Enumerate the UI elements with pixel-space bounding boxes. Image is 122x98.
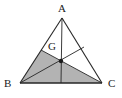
centroid-point-marker	[59, 59, 63, 63]
geometry-figure: A B C G	[0, 0, 122, 98]
centroid-label-g: G	[48, 41, 56, 52]
vertex-label-c: C	[108, 78, 115, 89]
vertex-label-a: A	[58, 3, 66, 14]
vertex-label-b: B	[4, 78, 11, 89]
triangle-diagram-svg	[0, 0, 122, 98]
